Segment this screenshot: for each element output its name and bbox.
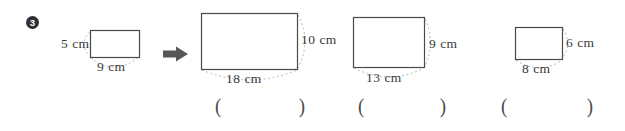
paren-close: ): [440, 93, 446, 118]
figure3-width-label: 8 cm: [522, 62, 551, 76]
paren-close: ): [587, 93, 593, 118]
arrow-right-icon: [163, 47, 188, 62]
figure3-rectangle: [516, 28, 563, 60]
figure2-rectangle: [354, 18, 425, 68]
paren-open: (: [501, 93, 507, 118]
paren-close: ): [299, 93, 305, 118]
paren-open: (: [358, 93, 364, 118]
figure1-rectangle: [202, 14, 298, 70]
paren-open: (: [215, 93, 221, 118]
source-width-label: 9 cm: [97, 60, 126, 74]
answer-blank-3: ( ): [501, 94, 593, 118]
worksheet-problem: 3 5 cm 9 cm 10 cm 18 cm 9 cm 13 cm 6 cm …: [0, 0, 625, 131]
source-rectangle: [91, 31, 140, 58]
answer-blank-2: ( ): [358, 94, 446, 118]
figure1-width-label: 18 cm: [226, 72, 262, 86]
figure3-height-label: 6 cm: [566, 36, 595, 50]
figure2-height-label: 9 cm: [429, 37, 458, 51]
figure1-height-label: 10 cm: [301, 33, 337, 47]
figure2-width-label: 13 cm: [366, 71, 402, 85]
source-height-label: 5 cm: [61, 37, 90, 51]
answer-blank-1: ( ): [215, 94, 305, 118]
